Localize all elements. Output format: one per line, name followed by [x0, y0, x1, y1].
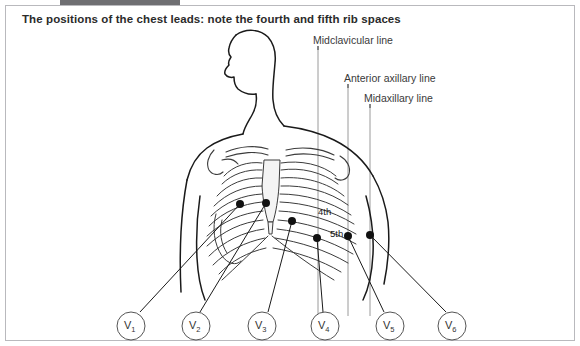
shoulder-right [284, 126, 373, 176]
rib-r6 [273, 248, 341, 272]
costal-margin-left [222, 236, 268, 280]
rib-l2 [217, 178, 262, 196]
rib-l5b [213, 238, 265, 265]
vlead-subscript-v4: 4 [325, 325, 329, 334]
xiphoid [268, 222, 273, 234]
rib-r2b [281, 186, 348, 205]
clavicle-right-lower [286, 154, 334, 160]
clavicle-left-lower [226, 153, 268, 157]
body-outline [180, 30, 389, 300]
label-midclavicular-line: Midclavicular line [313, 34, 393, 46]
shoulder-left [187, 134, 243, 180]
label-fourth-rib-space: 4th [318, 206, 331, 217]
vlead-subscript-v5: 5 [390, 325, 394, 334]
leader-v5 [348, 236, 384, 312]
vlead-subscript-v1: 1 [131, 325, 135, 334]
rib-l1 [224, 163, 262, 176]
label-fifth-rib-space: 5th [330, 228, 343, 239]
electrode-dot-v3 [288, 217, 296, 225]
ribcage-left [207, 163, 268, 280]
vlead-label-v2: V2 [189, 319, 201, 334]
leader-v1 [140, 204, 240, 312]
label-midaxillary-line: Midaxillary line [364, 92, 433, 104]
vlead-subscript-v2: 2 [196, 325, 200, 334]
arm-left [180, 180, 187, 292]
rib-r2 [281, 178, 344, 196]
electrode-dot-v2 [262, 199, 270, 207]
label-anterior-axillary-line: Anterior axillary line [344, 72, 436, 84]
leader-v3 [268, 221, 292, 312]
head-profile [225, 35, 256, 94]
vlead-subscript-v3: 3 [262, 325, 266, 334]
vlead-label-v3: V3 [255, 319, 267, 334]
leader-v6 [370, 235, 446, 312]
flank-left [197, 196, 205, 300]
electrode-dot-v1 [236, 200, 244, 208]
vlead-subscript-v6: 6 [452, 325, 456, 334]
vlead-label-v6: V6 [445, 319, 457, 334]
vlead-label-v4: V4 [318, 319, 330, 334]
electrode-dot-v5 [344, 232, 352, 240]
vlead-label-v1: V1 [124, 319, 136, 334]
vlead-circles [117, 312, 466, 340]
costal-margin-right [272, 236, 334, 280]
head-back [236, 30, 284, 126]
vlead-label-v5: V5 [383, 319, 395, 334]
scapula-left [208, 150, 223, 174]
leader-v2 [200, 203, 266, 312]
sternum [262, 160, 280, 234]
electrode-dot-v4 [313, 234, 321, 242]
anatomy-illustration [0, 0, 580, 346]
clavicle-left [226, 147, 268, 152]
scapula-right [335, 156, 350, 180]
figure-page: The positions of the chest leads: note t… [0, 0, 580, 346]
neck-front [243, 94, 256, 134]
arm-right [373, 176, 389, 284]
acromion-left [222, 159, 238, 164]
flank-right [363, 196, 373, 300]
electrode-dot-v6 [366, 231, 374, 239]
sternum-body [262, 160, 280, 222]
